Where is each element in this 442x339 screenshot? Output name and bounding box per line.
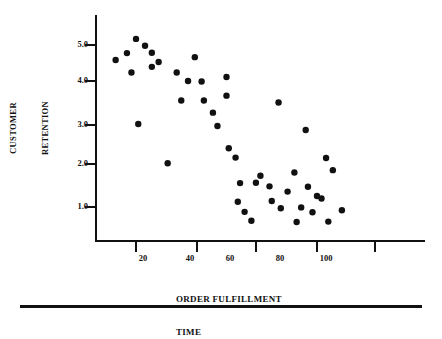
scatter-point (325, 218, 331, 224)
scatter-point (135, 121, 141, 127)
scatter-point (269, 198, 275, 204)
bottom-divider-rule (20, 305, 422, 308)
scatter-point (124, 50, 130, 56)
scatter-point (223, 74, 229, 80)
scatter-point (142, 43, 148, 49)
scatter-point (155, 59, 161, 65)
scatter-point (133, 36, 139, 42)
scatter-point (253, 180, 259, 186)
scatter-point (235, 199, 241, 205)
scatter-point (305, 184, 311, 190)
scatter-point (164, 160, 170, 166)
scatter-point (330, 167, 336, 173)
scatter-point (201, 97, 207, 103)
scatter-point (185, 78, 191, 84)
scatter-point (275, 99, 281, 105)
scatter-point (112, 57, 118, 63)
scatter-point (226, 145, 232, 151)
scatter-point (198, 78, 204, 84)
scatter-point (128, 69, 134, 75)
scatter-point (241, 209, 247, 215)
scatter-point (223, 92, 229, 98)
scatter-point (318, 195, 324, 201)
scatter-point (339, 207, 345, 213)
scatter-marker-group (112, 36, 345, 225)
scatter-point (257, 173, 263, 179)
scatter-point (278, 205, 284, 211)
scatter-point (232, 154, 238, 160)
scatter-point (298, 204, 304, 210)
scatter-point (237, 180, 243, 186)
scatter-point (291, 169, 297, 175)
scatter-point (293, 219, 299, 225)
scatter-point (149, 50, 155, 56)
scatter-point (214, 123, 220, 129)
scatter-point (174, 69, 180, 75)
scatter-point (302, 127, 308, 133)
scatter-point (210, 109, 216, 115)
scatter-point (309, 209, 315, 215)
scatter-point (284, 188, 290, 194)
scatter-point (266, 183, 272, 189)
scatter-point (323, 155, 329, 161)
scatter-point (178, 97, 184, 103)
scatter-point (149, 64, 155, 70)
scatter-point (192, 54, 198, 60)
x-axis-title-line2: TIME (176, 327, 282, 338)
scatter-point (248, 218, 254, 224)
